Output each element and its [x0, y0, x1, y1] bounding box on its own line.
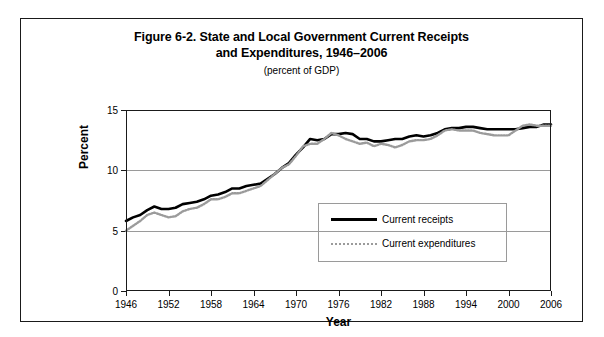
y-tick-label: 0	[112, 286, 118, 297]
figure-title-line-1: Figure 6-2. State and Local Government C…	[21, 29, 582, 45]
figure-frame: Figure 6-2. State and Local Government C…	[20, 18, 583, 322]
x-tick-label: 1952	[157, 299, 179, 310]
x-tick-label: 1964	[242, 299, 264, 310]
x-tick-mark	[509, 291, 510, 296]
y-tick-label: 10	[107, 165, 118, 176]
x-tick-mark	[126, 291, 127, 296]
y-tick-label: 15	[107, 105, 118, 116]
chart-legend[interactable]: Current receipts Current expenditures	[318, 203, 507, 262]
x-tick-label: 1988	[412, 299, 434, 310]
x-tick-label: 1958	[200, 299, 222, 310]
x-tick-mark	[296, 291, 297, 296]
x-tick-label: 2006	[540, 299, 562, 310]
figure-title-line-2: and Expenditures, 1946–2006	[21, 45, 582, 61]
x-tick-mark	[424, 291, 425, 296]
legend-item-current-expenditures[interactable]: Current expenditures	[331, 238, 475, 249]
x-tick-label: 1970	[285, 299, 307, 310]
legend-label-current-expenditures: Current expenditures	[382, 238, 475, 249]
x-axis-title: Year	[126, 315, 551, 329]
figure-subtitle: (percent of GDP)	[21, 63, 582, 78]
x-tick-mark	[339, 291, 340, 296]
legend-swatch-solid-line-icon	[331, 218, 377, 221]
y-axis-title: Percent	[77, 125, 91, 169]
legend-item-current-receipts[interactable]: Current receipts	[331, 214, 453, 225]
x-tick-label: 1994	[455, 299, 477, 310]
x-tick-label: 2000	[497, 299, 519, 310]
x-tick-label: 1946	[115, 299, 137, 310]
x-tick-mark	[169, 291, 170, 296]
x-tick-mark	[381, 291, 382, 296]
x-tick-label: 1976	[327, 299, 349, 310]
y-tick-label: 5	[112, 225, 118, 236]
figure-title-block: Figure 6-2. State and Local Government C…	[21, 29, 582, 78]
legend-swatch-dotted-line-icon	[331, 243, 377, 245]
legend-label-current-receipts: Current receipts	[382, 214, 453, 225]
y-axis-line	[126, 110, 127, 291]
plot-area: 0510151946195219581964197019761982198819…	[126, 110, 551, 291]
plot-frame-top-border	[126, 110, 551, 111]
x-axis-line	[126, 290, 551, 291]
x-tick-mark	[551, 291, 552, 296]
x-tick-mark	[211, 291, 212, 296]
x-tick-label: 1982	[370, 299, 392, 310]
line-series-group	[126, 110, 551, 291]
plot-frame-right-border	[550, 110, 551, 291]
x-tick-mark	[254, 291, 255, 296]
x-tick-mark	[466, 291, 467, 296]
